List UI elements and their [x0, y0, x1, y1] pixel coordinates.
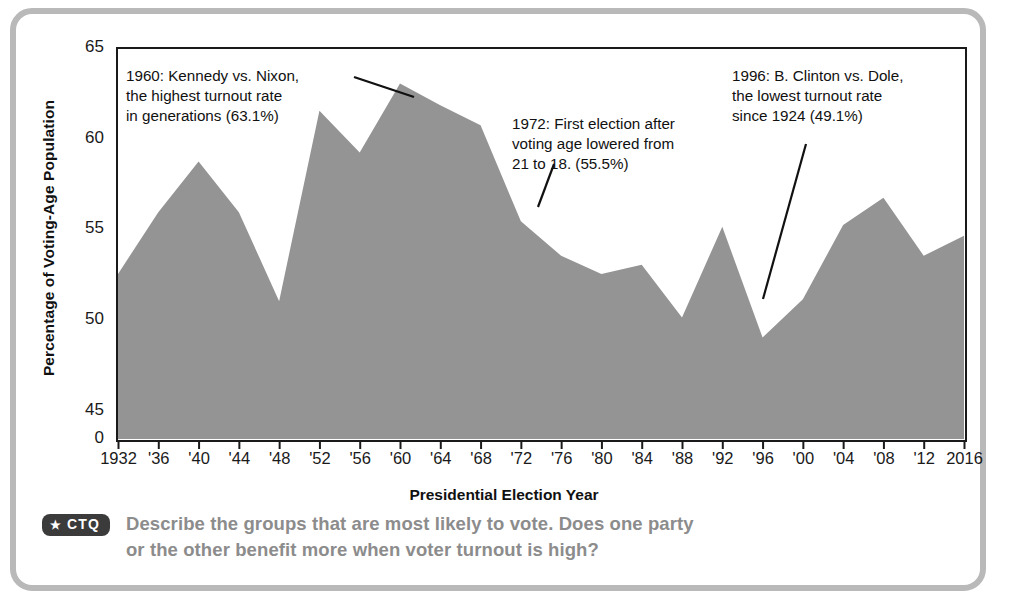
chart-plot-area: Percentage of Voting-Age Population 6560…	[16, 14, 992, 597]
x-tick-label-1988: '88	[672, 450, 694, 467]
x-tick-label-1980: '80	[591, 450, 613, 467]
y-tick-60: 60	[64, 129, 104, 146]
ctq-question-text: Describe the groups that are most likely…	[126, 511, 694, 564]
x-tick-label-1940: '40	[188, 450, 210, 467]
x-tick-label-1964: '64	[430, 450, 452, 467]
x-tick-label-2008: '08	[873, 450, 895, 467]
annotation-1960: 1960: Kennedy vs. Nixon, the highest tur…	[126, 66, 299, 125]
x-axis-title: Presidential Election Year	[16, 486, 992, 504]
x-tick-label-1956: '56	[349, 450, 371, 467]
x-tick-label-1992: '92	[712, 450, 734, 467]
ctq-question-row: ★ CTQ Describe the groups that are most …	[42, 511, 972, 564]
x-tick-label-1972: '72	[511, 450, 533, 467]
ctq-badge-label: CTQ	[67, 517, 100, 532]
x-tick-label-1936: '36	[148, 450, 170, 467]
y-tick-65: 65	[64, 38, 104, 55]
y-tick-45: 45	[64, 401, 104, 418]
x-tick-label-1944: '44	[229, 450, 251, 467]
x-tick-label-1952: '52	[309, 450, 331, 467]
annotation-1972: 1972: First election after voting age lo…	[512, 114, 675, 173]
x-tick-label-2004: '04	[833, 450, 855, 467]
x-tick-label-2012: '12	[913, 450, 935, 467]
x-axis-tick-labels: 1932'36'40'44'48'52'56'60'64'68'72'76'80…	[16, 450, 992, 474]
chart-figure-panel: Percentage of Voting-Age Population 6560…	[10, 8, 986, 591]
x-tick-label-1996: '96	[752, 450, 774, 467]
x-tick-label-2000: '00	[793, 450, 815, 467]
x-tick-label-1976: '76	[551, 450, 573, 467]
x-tick-label-1948: '48	[269, 450, 291, 467]
x-tick-label-1968: '68	[470, 450, 492, 467]
x-tick-label-2016: 2016	[946, 450, 983, 467]
annotation-1996: 1996: B. Clinton vs. Dole, the lowest tu…	[732, 66, 903, 125]
x-tick-label-1960: '60	[390, 450, 412, 467]
y-axis-title: Percentage of Voting-Age Population	[40, 48, 58, 428]
ctq-badge: ★ CTQ	[42, 514, 110, 536]
y-axis-tick-labels: 65605550450	[64, 14, 104, 464]
star-icon: ★	[50, 519, 62, 531]
y-tick-55: 55	[64, 219, 104, 236]
y-tick-50: 50	[64, 310, 104, 327]
y-tick-0: 0	[64, 429, 104, 446]
x-tick-label-1932: 1932	[100, 450, 137, 467]
x-tick-label-1984: '84	[631, 450, 653, 467]
